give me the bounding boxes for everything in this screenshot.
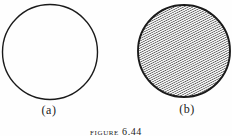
figure-caption: figure 6.44 — [0, 126, 232, 136]
figure-6-44: (a) (b) figure 6.44 — [0, 0, 232, 136]
panel-label-b: (b) — [138, 103, 232, 116]
circle-b-outline — [138, 5, 230, 97]
circle-a-empty — [0, 1, 100, 102]
panel-label-a: (a) — [0, 104, 98, 117]
circle-a-outline — [3, 5, 98, 100]
circle-b-hatched — [135, 0, 232, 100]
